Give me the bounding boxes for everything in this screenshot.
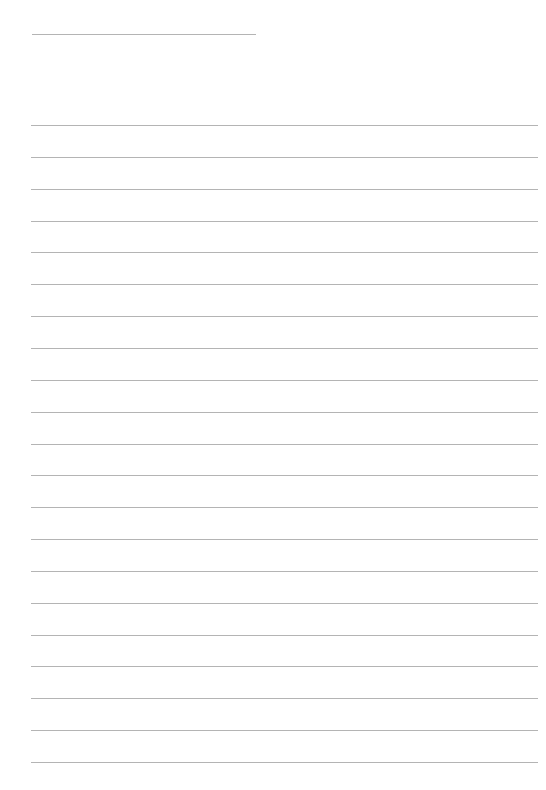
ruled-line (31, 571, 538, 572)
ruled-line (31, 507, 538, 508)
ruled-line (31, 412, 538, 413)
ruled-line (31, 125, 538, 126)
ruled-line (31, 348, 538, 349)
ruled-line (31, 698, 538, 699)
header-name-line (32, 34, 256, 35)
ruled-line (31, 635, 538, 636)
ruled-line (31, 475, 538, 476)
ruled-line (31, 284, 538, 285)
ruled-line (31, 252, 538, 253)
ruled-line (31, 762, 538, 763)
ruled-line (31, 730, 538, 731)
ruled-line (31, 444, 538, 445)
ruled-line (31, 539, 538, 540)
ruled-line (31, 666, 538, 667)
ruled-line (31, 221, 538, 222)
ruled-line (31, 157, 538, 158)
ruled-line (31, 603, 538, 604)
ruled-line (31, 189, 538, 190)
ruled-line (31, 380, 538, 381)
ruled-line (31, 316, 538, 317)
